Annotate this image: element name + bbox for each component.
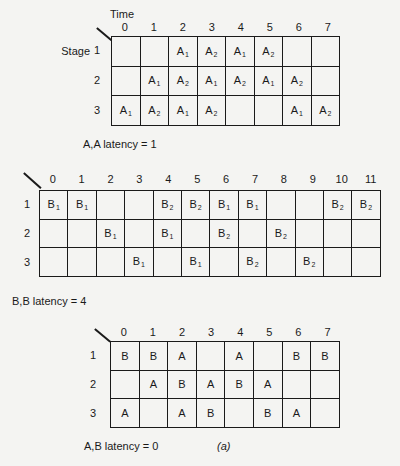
- table3-cell: [282, 370, 311, 399]
- table2-row-label: 2: [10, 227, 30, 239]
- table1-cell: A1: [112, 96, 141, 126]
- table2-cell: [125, 219, 153, 248]
- table2-cell: [68, 219, 96, 248]
- table3-cell: B: [311, 342, 340, 371]
- table2-row-1: B1B1B2B2B1B1B2B2: [40, 191, 381, 220]
- table3-cell: B: [168, 370, 197, 399]
- table3-col-header: 0: [110, 326, 138, 338]
- table2-cell: [96, 248, 124, 277]
- table2-col-header: 8: [270, 173, 297, 185]
- table2-cell: [210, 248, 238, 277]
- table2-cell: B2: [181, 191, 209, 220]
- table2-cell: [267, 248, 295, 277]
- table2-cell: B2: [352, 191, 380, 220]
- table2-cell: [323, 219, 351, 248]
- table1-row-label: 2: [80, 74, 100, 86]
- table2-col-header: 5: [184, 173, 211, 185]
- table2-col-header: 0: [39, 173, 66, 185]
- table1-cell: [112, 66, 141, 96]
- table3-cell: [311, 399, 340, 428]
- table2-cell: B1: [96, 219, 124, 248]
- table2-col-header: 10: [328, 173, 355, 185]
- figure-label: (a): [217, 440, 230, 452]
- table2-cell: B2: [295, 248, 323, 277]
- table1-caption: A,A latency = 1: [83, 138, 157, 150]
- table2-cell: [96, 191, 124, 220]
- table2-row-2: B1B1B2B2: [40, 219, 381, 248]
- table1-cell: A1: [169, 37, 198, 67]
- table2-cell: B1: [210, 191, 238, 220]
- table3-caption: A,B latency = 0: [84, 440, 158, 452]
- table1-cell: [283, 37, 312, 67]
- table1-cell: [140, 37, 169, 67]
- table3-col-header: 4: [226, 326, 254, 338]
- table2-col-header: 2: [97, 173, 124, 185]
- table3-cell: [253, 342, 282, 371]
- table2-row-label: 3: [10, 256, 30, 268]
- table1-cell: A2: [197, 96, 226, 126]
- table3-grid: BBAABBABABAAABBA: [110, 341, 340, 428]
- table3-cell: [225, 399, 254, 428]
- table2-cell: [40, 248, 68, 277]
- table1-row-label: 1: [80, 44, 100, 56]
- table1-cell: [112, 37, 141, 67]
- table3-cell: B: [139, 342, 168, 371]
- table3-cell: [196, 342, 225, 371]
- table1-cell: A2: [311, 96, 340, 126]
- table1-row-2: A1A2A1A2A1A2: [112, 66, 340, 96]
- table3-row-label: 3: [76, 407, 96, 419]
- table1-cell: [311, 66, 340, 96]
- table1-cell: [254, 96, 283, 126]
- table1-cell: A2: [283, 66, 312, 96]
- table1-cell: A2: [140, 96, 169, 126]
- table3-cell: B: [196, 399, 225, 428]
- table1-row-1: A1A2A1A2: [112, 37, 340, 67]
- table2-col-header: 7: [241, 173, 268, 185]
- table3-col-header: 1: [139, 326, 167, 338]
- table1-cell: A2: [169, 66, 198, 96]
- table2-cell: B1: [125, 248, 153, 277]
- table1-col-header: 3: [198, 21, 226, 33]
- table2-cell: [153, 248, 181, 277]
- table1-col-header: 4: [227, 21, 255, 33]
- table1-row-label: 3: [80, 104, 100, 116]
- table1-grid: A1A2A1A2A1A2A1A2A1A2A1A2A1A2A1A2: [111, 36, 340, 126]
- table3-col-header: 2: [168, 326, 196, 338]
- table1-cell: A1: [254, 66, 283, 96]
- table1-cell: A2: [226, 66, 255, 96]
- table1-row-3: A1A2A1A2A1A2: [112, 96, 340, 126]
- table2-cell: [295, 219, 323, 248]
- table3-cell: A: [168, 399, 197, 428]
- table2-cell: B2: [238, 248, 266, 277]
- table2-cell: B1: [40, 191, 68, 220]
- table2-row-label: 1: [10, 198, 30, 210]
- table1-cell: A1: [226, 37, 255, 67]
- table3-cell: A: [196, 370, 225, 399]
- table3-cell: A: [139, 370, 168, 399]
- table2-cell: B1: [181, 248, 209, 277]
- table2-cell: [352, 248, 380, 277]
- table2-cell: [68, 248, 96, 277]
- table3-col-header: 7: [314, 326, 342, 338]
- table3-cell: B: [225, 370, 254, 399]
- table2-cell: B2: [210, 219, 238, 248]
- table2-cell: B1: [68, 191, 96, 220]
- table1-cell: A1: [197, 66, 226, 96]
- table3-cell: B: [282, 342, 311, 371]
- table3-cell: A: [168, 342, 197, 371]
- table1-col-header: 1: [140, 21, 168, 33]
- table3-cell: A: [111, 399, 140, 428]
- table1-cell: A2: [197, 37, 226, 67]
- table1-col-header: 0: [111, 21, 139, 33]
- table2-grid: B1B1B2B2B1B1B2B2B1B1B2B2B1B1B2B2: [39, 190, 381, 277]
- table3-row-label: 1: [76, 349, 96, 361]
- table1-col-header: 6: [285, 21, 313, 33]
- table2-caption: B,B latency = 4: [12, 295, 86, 307]
- table1-cell: [311, 37, 340, 67]
- table2-cell: [125, 191, 153, 220]
- table3-cell: A: [225, 342, 254, 371]
- table1-col-header: 5: [256, 21, 284, 33]
- table3-cell: [139, 399, 168, 428]
- table1-col-header: 7: [314, 21, 342, 33]
- table2-cell: B1: [238, 191, 266, 220]
